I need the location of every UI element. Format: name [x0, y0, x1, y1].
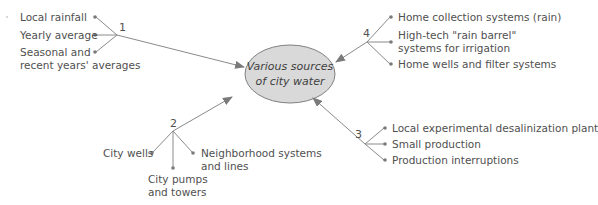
branch-3-connectors: [313, 98, 384, 160]
branch-2-item-city-pumps-line1: City pumps: [148, 173, 208, 186]
branch-2-item-neighborhood-line2: and lines: [201, 160, 249, 173]
branch-1-item-seasonal-line2: recent years' averages: [20, 59, 140, 72]
branch-3-item-desalinization: Local experimental desalinization plant: [392, 122, 598, 135]
branch-4-item-home-collection: Home collection systems (rain): [398, 11, 561, 24]
branch-4-item-rain-barrel-line1: High-tech "rain barrel": [398, 29, 516, 42]
branch-2-item-neighborhood-line1: Neighborhood systems: [201, 147, 322, 160]
branch-4-item-home-wells: Home wells and filter systems: [398, 58, 556, 71]
branch-4-dots: [389, 15, 393, 66]
branch-2-item-city-wells: City wells: [103, 147, 153, 160]
branch-4-connectors: [336, 17, 390, 64]
branch-3-item-small-production: Small production: [392, 138, 481, 151]
central-node-label: Various sources of city water: [235, 59, 345, 89]
branch-2-number: 2: [170, 117, 177, 130]
branch-4-item-rain-barrel-line2: systems for irrigation: [398, 42, 510, 55]
branch-1-item-yearly-average: Yearly average: [20, 29, 98, 42]
branch-3-dots: [383, 126, 387, 162]
branch-3-number: 3: [355, 128, 362, 141]
branch-3-item-interruptions: Production interruptions: [392, 154, 519, 167]
central-node-line1: Various sources: [235, 59, 345, 74]
branch-4-number: 4: [363, 27, 370, 40]
branch-1-number: 1: [119, 21, 126, 34]
stray-dot: [6, 16, 8, 18]
branch-1-item-local-rainfall: Local rainfall: [20, 11, 87, 24]
branch-2-item-city-pumps-line2: and towers: [148, 186, 206, 199]
branch-1-item-seasonal-line1: Seasonal and: [20, 46, 91, 59]
central-node-line2: of city water: [235, 74, 345, 89]
